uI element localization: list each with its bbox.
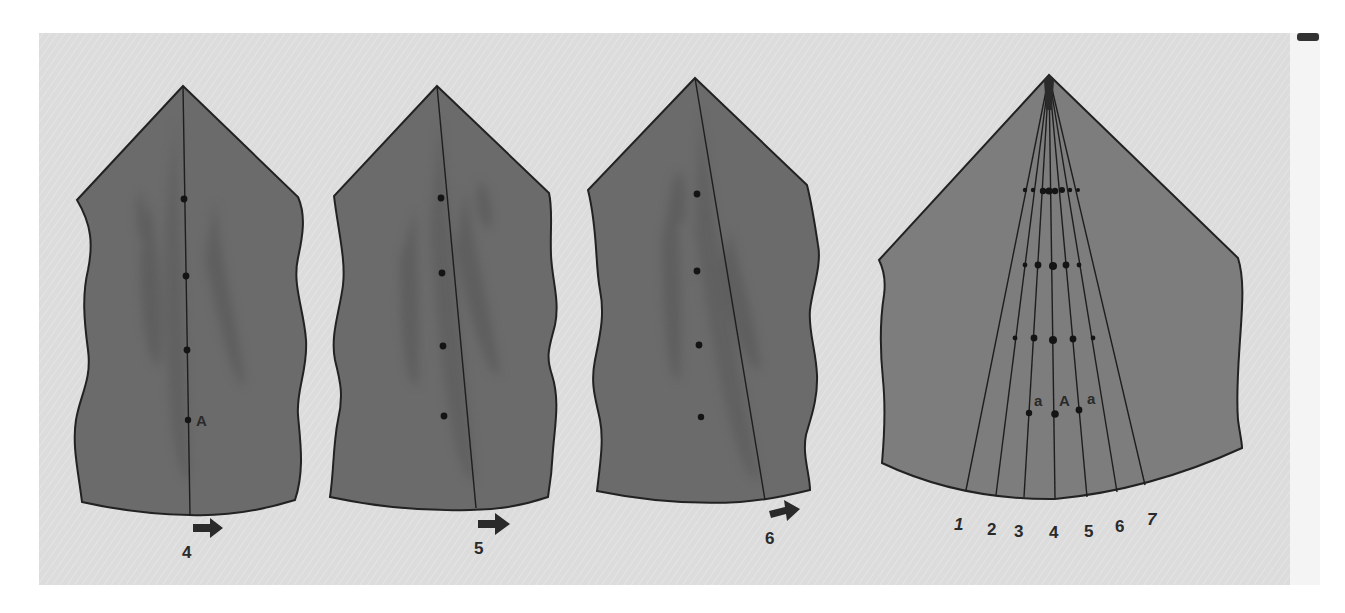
ray-label-4: 4 bbox=[1049, 523, 1059, 542]
ray-label-2: 2 bbox=[987, 520, 996, 539]
ray-label-6: 6 bbox=[1115, 517, 1124, 536]
ray-label-5: 5 bbox=[1084, 522, 1093, 541]
point-label-A: A bbox=[196, 412, 207, 429]
point-label-a-left: a bbox=[1034, 392, 1043, 409]
ray-label-7: 7 bbox=[1147, 510, 1158, 529]
corner-mark bbox=[1297, 33, 1319, 41]
step-label: 5 bbox=[474, 539, 483, 558]
point-label-a-right: a bbox=[1087, 390, 1096, 407]
right-margin-strip bbox=[1290, 33, 1320, 585]
ray-label-3: 3 bbox=[1014, 522, 1023, 541]
step-label: 4 bbox=[182, 543, 192, 562]
diagram-figure: A 4 5 bbox=[0, 0, 1345, 613]
step-label: 6 bbox=[765, 529, 774, 548]
point-label-A: A bbox=[1059, 392, 1070, 409]
ray-label-1: 1 bbox=[954, 515, 963, 534]
